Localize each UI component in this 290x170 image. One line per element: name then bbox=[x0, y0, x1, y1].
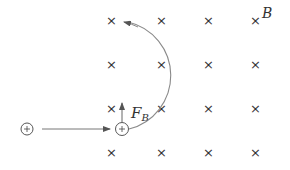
field-cross-icon: × bbox=[156, 57, 167, 72]
field-label: B bbox=[261, 5, 272, 21]
field-cross-icon: × bbox=[106, 13, 117, 28]
magnetic-field-diagram: × × × × × × × × × × × × × × × × B FB bbox=[0, 0, 290, 170]
field-cross-icon: × bbox=[203, 101, 214, 116]
magnetic-field-crosses: × × × × × × × × × × × × × × × × bbox=[106, 13, 261, 160]
field-cross-icon: × bbox=[250, 101, 261, 116]
field-cross-icon: × bbox=[156, 145, 167, 160]
field-cross-icon: × bbox=[203, 145, 214, 160]
field-cross-icon: × bbox=[250, 13, 261, 28]
field-cross-icon: × bbox=[106, 101, 117, 116]
field-cross-icon: × bbox=[250, 145, 261, 160]
field-cross-icon: × bbox=[106, 57, 117, 72]
force-label: FB bbox=[130, 104, 149, 123]
field-cross-icon: × bbox=[156, 13, 167, 28]
field-cross-icon: × bbox=[156, 101, 167, 116]
field-cross-icon: × bbox=[203, 57, 214, 72]
field-cross-icon: × bbox=[106, 145, 117, 160]
field-cross-icon: × bbox=[203, 13, 214, 28]
field-cross-icon: × bbox=[250, 57, 261, 72]
charge-at-entry bbox=[116, 123, 129, 136]
charge-initial bbox=[21, 123, 33, 135]
